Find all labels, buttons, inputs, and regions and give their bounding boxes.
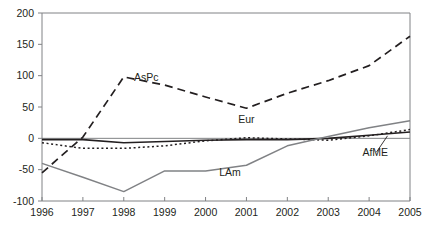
annotation-aspc: AsPc	[134, 71, 159, 83]
y-tick-label: -100	[13, 195, 34, 207]
x-tick-label: 2005	[398, 206, 422, 218]
annotation-eur: Eur	[238, 113, 255, 125]
x-tick-label: 2002	[276, 206, 300, 218]
x-tick-label: 2004	[357, 206, 381, 218]
y-tick-label: 100	[16, 69, 34, 81]
series-line-lam	[42, 121, 410, 192]
annotation-lam: LAm	[219, 166, 241, 178]
x-tick-label: 1999	[153, 206, 177, 218]
y-tick-label: 150	[16, 38, 34, 50]
series-line-eur	[42, 130, 410, 149]
y-axis-ticks: -100-50050100150200	[13, 7, 42, 207]
x-tick-label: 2000	[194, 206, 218, 218]
chart-container: -100-50050100150200 19961997199819992000…	[0, 0, 424, 226]
x-tick-label: 2001	[235, 206, 259, 218]
x-tick-label: 1998	[112, 206, 136, 218]
y-tick-label: -50	[19, 163, 34, 175]
y-tick-label: 0	[28, 132, 34, 144]
y-tick-label: 50	[22, 101, 34, 113]
x-tick-label: 1996	[30, 206, 54, 218]
series-line-aspc	[42, 36, 410, 173]
line-chart: -100-50050100150200 19961997199819992000…	[0, 0, 424, 226]
x-axis-ticks: 1996199719981999200020012002200320042005	[30, 197, 422, 218]
x-tick-label: 1997	[71, 206, 95, 218]
annotation-afme: AfME	[362, 146, 388, 158]
y-tick-label: 200	[16, 7, 34, 19]
x-tick-label: 2003	[317, 206, 341, 218]
